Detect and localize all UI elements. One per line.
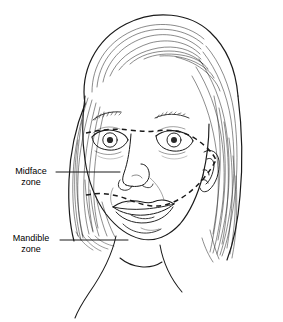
midface-zone-label: Midface zone: [5, 166, 57, 187]
mandible-zone-label: Mandible zone: [1, 233, 61, 254]
midface-label-line2: zone: [5, 177, 57, 188]
anatomical-zone-figure: Midface zone Mandible zone: [0, 0, 283, 322]
figure-background: [0, 0, 283, 322]
midface-label-line1: Midface: [5, 166, 57, 177]
mandible-label-line1: Mandible: [1, 233, 61, 244]
face-line-drawing: [0, 0, 283, 322]
mandible-label-line2: zone: [1, 244, 61, 255]
